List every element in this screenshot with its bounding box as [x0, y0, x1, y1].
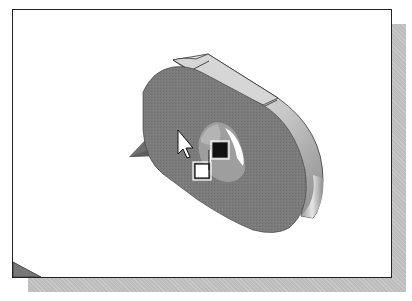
- 3d-scene[interactable]: [13, 10, 391, 277]
- corner-view-indicator: [13, 262, 41, 277]
- graphics-viewport[interactable]: [12, 9, 392, 278]
